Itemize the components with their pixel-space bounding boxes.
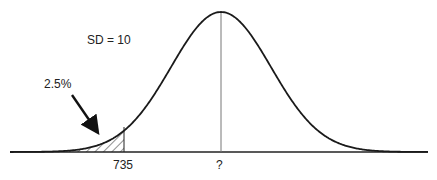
sd-label: SD = 10	[87, 33, 131, 47]
mean-tick-label: ?	[216, 158, 223, 172]
cutoff-tick-label: 735	[113, 158, 133, 172]
arrow-icon	[72, 95, 94, 127]
normal-curve	[10, 12, 428, 152]
tail-percent-label: 2.5%	[44, 77, 71, 91]
